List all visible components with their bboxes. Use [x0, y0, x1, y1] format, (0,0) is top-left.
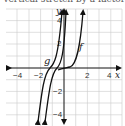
curve-g2: [45, 12, 66, 122]
graph: −4 −2 2 4 x 4 2 −2 −4 y g f: [0, 0, 125, 126]
x-tick-p2: 2: [85, 71, 90, 80]
y-tick-m4: −4: [53, 110, 63, 119]
x-tick-m2: −2: [34, 71, 44, 80]
label-g: g: [44, 55, 50, 66]
x-tick-p4: 4: [107, 71, 112, 80]
y-axis-label: y: [55, 6, 62, 16]
x-axis-label: x: [115, 70, 120, 80]
y-tick-m2: −2: [53, 87, 63, 96]
label-f: f: [78, 41, 85, 52]
x-tick-m4: −4: [13, 71, 23, 80]
